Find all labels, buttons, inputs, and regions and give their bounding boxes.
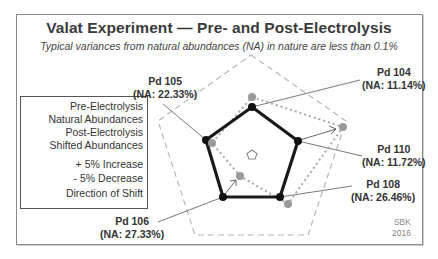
legend-item-direction: Direction of Shift bbox=[21, 187, 147, 200]
legend-pre-line2: Natural Abundances bbox=[21, 113, 147, 126]
pd105-na: (NA: 22.33%) bbox=[133, 88, 197, 101]
legend-direction-label: Direction of Shift bbox=[21, 187, 147, 200]
label-pd110: Pd 110 (NA: 11.72%) bbox=[362, 143, 426, 169]
pd104-name: Pd 104 bbox=[362, 66, 426, 79]
pd106-name: Pd 106 bbox=[100, 215, 164, 228]
label-pd108: Pd 108 (NA: 26.46%) bbox=[351, 178, 415, 204]
signature-author: SBK bbox=[392, 217, 411, 228]
legend-item-pre-electrolysis: Pre-Electrolysis Natural Abundances bbox=[21, 100, 147, 125]
pd106-na: (NA: 27.33%) bbox=[100, 228, 164, 241]
signature-year: 2016 bbox=[392, 228, 411, 239]
label-pd104: Pd 104 (NA: 11.14%) bbox=[362, 66, 426, 92]
legend-decrease-label: - 5% Decrease bbox=[21, 172, 147, 185]
legend-pre-line1: Pre-Electrolysis bbox=[21, 100, 147, 113]
legend: Pre-Electrolysis Natural Abundances Post… bbox=[20, 96, 148, 209]
decrease-5pct-pentagon-icon bbox=[247, 150, 257, 159]
pd105-name: Pd 105 bbox=[133, 75, 197, 88]
signature: SBK 2016 bbox=[392, 217, 411, 239]
label-pd106: Pd 106 (NA: 27.33%) bbox=[100, 215, 164, 241]
label-pd105: Pd 105 (NA: 22.33%) bbox=[133, 75, 197, 101]
legend-item-increase: + 5% Increase bbox=[21, 158, 147, 171]
legend-post-line2: Shifted Abundances bbox=[21, 139, 147, 152]
legend-post-line1: Post-Electrolysis bbox=[21, 126, 147, 139]
legend-increase-label: + 5% Increase bbox=[21, 158, 147, 171]
post-markers bbox=[208, 93, 347, 208]
leader-lines bbox=[158, 80, 362, 222]
legend-item-post-electrolysis: Post-Electrolysis Shifted Abundances bbox=[21, 126, 147, 151]
legend-item-decrease: - 5% Decrease bbox=[21, 172, 147, 185]
pd108-name: Pd 108 bbox=[351, 178, 415, 191]
post-electrolysis-polygon bbox=[212, 97, 343, 204]
pd110-name: Pd 110 bbox=[362, 143, 426, 156]
pd108-na: (NA: 26.46%) bbox=[351, 191, 415, 204]
pd104-na: (NA: 11.14%) bbox=[362, 79, 426, 92]
pd110-na: (NA: 11.72%) bbox=[362, 156, 426, 169]
